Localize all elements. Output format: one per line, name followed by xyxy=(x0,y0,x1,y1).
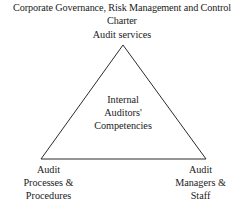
triangle-corner-label-bottom-right: Audit Managers & Staff xyxy=(152,163,244,203)
corner-right-line-3: Staff xyxy=(152,189,244,202)
corner-left-line-1: Audit xyxy=(0,163,97,176)
corner-right-line-1: Audit xyxy=(152,163,244,176)
triangle-center-label: Internal Auditors' Competencies xyxy=(62,93,184,133)
corner-right-line-2: Managers & xyxy=(152,176,244,189)
center-label-line-2: Auditors' xyxy=(62,106,184,119)
center-label-line-1: Internal xyxy=(62,93,184,106)
diagram-canvas: Corporate Governance, Risk Management an… xyxy=(0,0,244,207)
corner-left-line-2: Processes & xyxy=(0,176,97,189)
triangle-corner-label-bottom-left: Audit Processes & Procedures xyxy=(0,163,97,203)
corner-left-line-3: Procedures xyxy=(0,189,97,202)
center-label-line-3: Competencies xyxy=(62,119,184,132)
